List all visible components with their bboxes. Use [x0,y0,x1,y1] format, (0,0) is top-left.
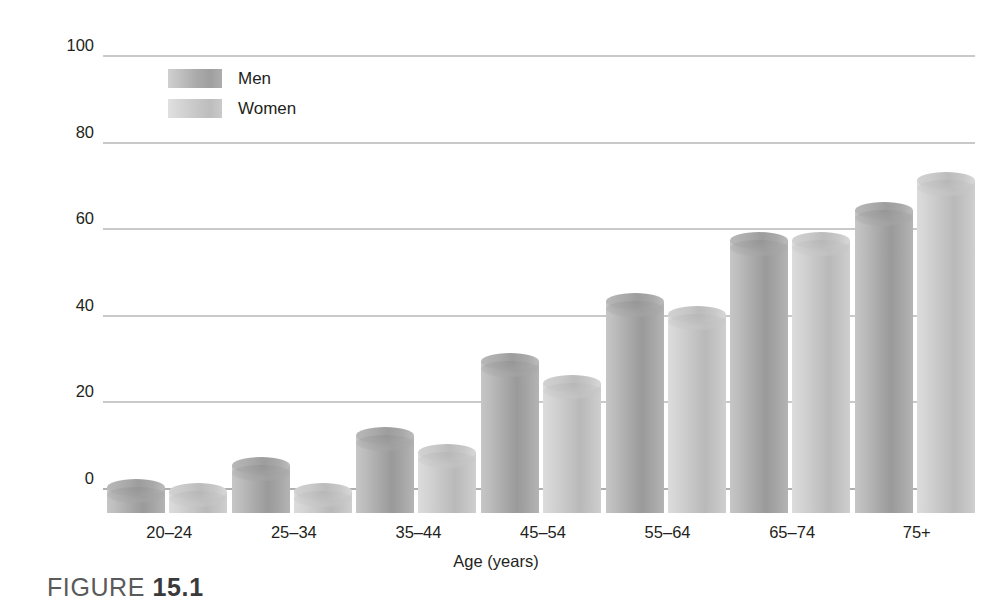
y-tick-label-0: 0 [85,468,94,488]
bar-women-20_24 [169,491,227,513]
bar-body [543,383,601,513]
bar-women-35_44 [418,452,476,513]
bar-men-75+ [855,210,913,513]
bar-women-75+ [917,180,975,513]
y-tick-label-60: 60 [76,208,94,228]
bar-men-35_44 [356,435,414,513]
y-tick-label-80: 80 [76,122,94,142]
bar-body [668,314,726,513]
bar-body [606,301,664,513]
legend-item-women: Women [168,96,296,121]
bar-body [855,210,913,513]
bar-men-20_24 [107,487,165,513]
bar-group-45_54 [481,55,605,513]
bar-group-65_74 [730,55,854,513]
bar-top-shadow [917,180,975,196]
bar-group-75+ [855,55,979,513]
bar-top-shadow [606,301,664,317]
figure-root: Percentage of people with cardiovascular… [0,0,992,598]
x-axis-title: Age (years) [0,552,992,571]
bar-women-65_74 [792,240,850,513]
bar-top-shadow [543,383,601,399]
chart-legend: MenWomen [168,66,296,126]
bar-women-45_54 [543,383,601,513]
bar-men-25_34 [232,465,290,513]
bar-men-65_74 [730,240,788,513]
legend-swatch-women [168,99,222,118]
bar-top-shadow [668,314,726,330]
figure-caption-number: 15.1 [153,573,204,598]
y-tick-label-100: 100 [66,35,94,55]
bar-top-shadow [855,210,913,226]
bar-women-55_64 [668,314,726,513]
bar-top-shadow [107,487,165,503]
y-tick-label-20: 20 [76,381,94,401]
bar-men-55_64 [606,301,664,513]
bar-women-25_34 [294,491,352,513]
figure-caption: FIGURE 15.1 [47,573,204,598]
bar-body [730,240,788,513]
x-tick-label-75+: 75+ [835,523,992,542]
bar-group-55_64 [606,55,730,513]
bar-group-35_44 [356,55,480,513]
bar-body [917,180,975,513]
legend-label-men: Men [238,69,271,89]
bar-men-45_54 [481,361,539,513]
figure-caption-prefix: FIGURE [47,573,153,598]
legend-item-men: Men [168,66,296,91]
bar-body [481,361,539,513]
legend-swatch-men [168,69,222,88]
bar-body [792,240,850,513]
y-tick-label-40: 40 [76,295,94,315]
legend-label-women: Women [238,99,296,119]
